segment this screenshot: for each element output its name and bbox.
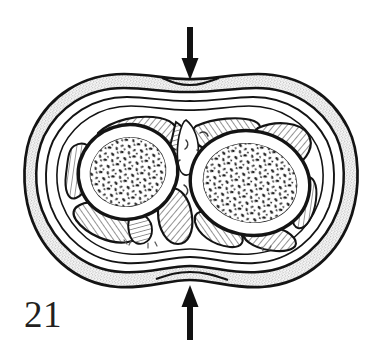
- figure-number-label: 21: [24, 296, 62, 333]
- bottom-arrow-shaft: [187, 307, 193, 340]
- figure-illustration: 21: [0, 0, 382, 361]
- top-arrow-shaft: [187, 27, 193, 61]
